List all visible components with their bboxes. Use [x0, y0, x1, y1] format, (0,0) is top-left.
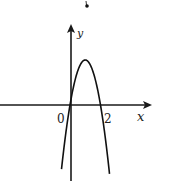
dot-mark [85, 4, 89, 8]
function-graph: y x 0 2 [0, 0, 174, 188]
x-axis-label: x [137, 109, 145, 124]
x-tick-label-2: 2 [104, 112, 112, 126]
origin-label: 0 [57, 112, 65, 126]
y-axis-label: y [76, 27, 84, 40]
parabola-curve [62, 60, 110, 174]
